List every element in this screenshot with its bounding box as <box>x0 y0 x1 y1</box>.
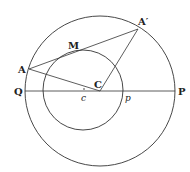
label-p: p <box>125 93 131 103</box>
label-Q: Q <box>14 86 23 97</box>
segment-AA-prime <box>29 29 138 69</box>
geometry-diagram: A A′ M C c p Q P <box>0 0 190 172</box>
point-c-dot <box>83 88 85 90</box>
label-c: c <box>81 93 86 103</box>
label-C: C <box>94 79 102 90</box>
label-A-prime: A′ <box>137 16 149 27</box>
label-A: A <box>17 64 26 75</box>
label-M: M <box>68 40 79 51</box>
label-P: P <box>178 86 186 97</box>
segment-CA-prime <box>100 29 138 91</box>
segment-AC <box>29 69 100 91</box>
inner-circle <box>43 50 123 130</box>
